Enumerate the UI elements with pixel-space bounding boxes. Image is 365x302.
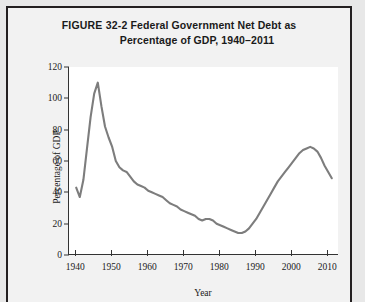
x-tick-mark [291,250,292,256]
y-tick-label: 80 [53,125,63,135]
x-tick-mark [255,250,256,256]
x-tick-label: 1980 [210,262,229,272]
figure-title: FIGURE 32-2 Federal Government Net Debt … [8,18,350,48]
x-axis-title: Year [68,288,338,298]
x-axis-ticks: 19401950196019701980199020002010 [68,67,338,255]
x-tick-label: 1990 [246,262,265,272]
y-tick-label: 0 [57,250,62,260]
y-tick-label: 20 [53,219,63,229]
x-tick-label: 1960 [138,262,157,272]
y-tick-label: 60 [53,156,63,166]
x-tick-mark [111,250,112,256]
figure-container: FIGURE 32-2 Federal Government Net Debt … [6,6,352,302]
x-tick-mark [183,250,184,256]
x-tick-mark [147,250,148,256]
x-tick-label: 1940 [66,262,85,272]
chart-area: Percentage of GDP 020406080100120 194019… [68,67,344,267]
figure-title-line2: Percentage of GDP, 1940–2011 [8,33,350,48]
x-tick-mark [219,250,220,256]
x-tick-mark [75,250,76,256]
y-tick-label: 100 [48,93,62,103]
x-tick-label: 1950 [102,262,121,272]
figure-number: FIGURE 32-2 [62,19,128,31]
x-tick-label: 2000 [282,262,301,272]
x-tick-mark [327,250,328,256]
x-tick-label: 2010 [318,262,337,272]
x-tick-label: 1970 [174,262,193,272]
y-tick-label: 120 [48,62,62,72]
figure-title-line1: Federal Government Net Debt as [131,19,297,31]
y-tick-label: 40 [53,187,63,197]
